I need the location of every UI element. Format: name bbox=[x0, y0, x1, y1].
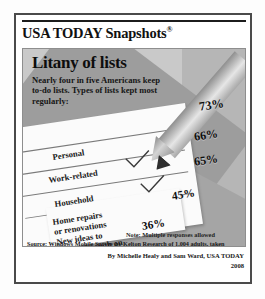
headline-subtitle: Nearly four in five Americans keep to-do… bbox=[32, 75, 164, 106]
clipping-frame: USA TODAY Snapshots® bbox=[14, 13, 252, 284]
checkmark-icon bbox=[124, 149, 152, 169]
byline: By Michelle Healy and Sam Ward, USA TODA… bbox=[108, 251, 244, 271]
page-title: Litany of lists bbox=[32, 54, 164, 71]
graphic-panel: Litany of lists Nearly four in five Amer… bbox=[22, 48, 246, 247]
masthead-title: USA TODAY Snapshots® bbox=[22, 25, 172, 42]
masthead: USA TODAY Snapshots® bbox=[22, 19, 246, 47]
snapshot-page: USA TODAY Snapshots® bbox=[0, 0, 265, 299]
registered-mark-icon: ® bbox=[167, 25, 173, 34]
chart-note: Note: Multiple responses allowed bbox=[126, 231, 215, 238]
checkmark-icon bbox=[139, 174, 167, 194]
byline-year: 2008 bbox=[108, 261, 244, 271]
masthead-rule bbox=[22, 20, 246, 22]
headline-block: Litany of lists Nearly four in five Amer… bbox=[32, 54, 164, 106]
source-note: Source: Windows Mobile Survey by Kelton … bbox=[27, 240, 227, 247]
value-label-personal: 73% bbox=[198, 96, 225, 115]
byline-credit: By Michelle Healy and Sam Ward, USA TODA… bbox=[108, 252, 244, 259]
masthead-title-text: USA TODAY Snapshots bbox=[22, 25, 167, 41]
